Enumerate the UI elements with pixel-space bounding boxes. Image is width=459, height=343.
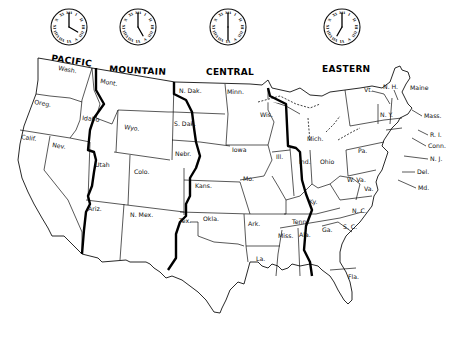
label-utah: Utah — [95, 161, 110, 168]
label-mich: Mich. — [307, 135, 323, 142]
time-zone-map: XIIIIIIIIIIIIVVIVIIVIIIIXXXI XIIIIIIIIII… — [0, 0, 459, 343]
label-va: Va. — [364, 185, 374, 192]
label-tenn: Tenn. — [291, 218, 308, 225]
svg-text:III: III — [240, 24, 244, 29]
zone-label-eastern: EASTERN — [322, 64, 370, 74]
zone-label-central: CENTRAL — [206, 67, 254, 77]
label-pa: Pa. — [358, 147, 367, 154]
label-vt: Vt. — [364, 86, 373, 93]
label-la: La. — [256, 255, 265, 262]
label-ny: N. Y. — [380, 111, 393, 118]
label-ri: R. I. — [430, 131, 442, 138]
label-iowa: Iowa — [232, 146, 247, 153]
label-wva: W. Va. — [347, 176, 366, 183]
label-maine: Maine — [410, 84, 429, 91]
svg-text:III: III — [81, 24, 85, 29]
clock-central: XIIIIIIIIIIIIVVIVIIVIIIIXXXI — [210, 9, 246, 45]
label-miss: Miss. — [278, 232, 294, 239]
label-nc: N. C. — [352, 207, 367, 214]
label-md: Md. — [418, 184, 429, 191]
label-colo: Colo. — [134, 168, 150, 175]
label-sc: S. C. — [343, 223, 357, 230]
label-ndak: N. Dak. — [179, 87, 202, 94]
label-ark: Ark. — [248, 220, 260, 227]
label-fla: Fla. — [348, 273, 359, 280]
label-sdak: S. Dak. — [174, 120, 196, 127]
svg-text:VI: VI — [339, 39, 345, 43]
clock-eastern: XIIIIIIIIIIIIVVIVIIVIIIIXXXI — [324, 9, 360, 45]
label-del: Del. — [417, 168, 429, 175]
label-ohio: Ohio — [320, 158, 335, 165]
label-nebr: Nebr. — [175, 150, 191, 157]
label-wis: Wis. — [260, 111, 273, 118]
label-ga: Ga. — [322, 226, 333, 233]
label-mass: Mass. — [424, 112, 442, 119]
svg-text:IX: IX — [326, 25, 330, 30]
svg-text:IX: IX — [122, 25, 126, 30]
label-conn: Conn. — [428, 142, 446, 149]
svg-text:III: III — [354, 24, 358, 29]
label-tex: Tex. — [178, 217, 191, 224]
svg-text:VI: VI — [66, 39, 72, 43]
label-okla: Okla. — [203, 215, 219, 222]
label-ala: Ala. — [299, 231, 311, 238]
label-ky: Ky. — [309, 198, 317, 206]
label-ind: Ind. — [299, 158, 311, 165]
label-nj: N. J. — [430, 155, 442, 163]
label-nh: N. H. — [383, 83, 398, 90]
clock-mountain: XIIIIIIIIIIIIVVIVIIVIIIIXXXI — [120, 9, 156, 45]
svg-text:III: III — [150, 24, 154, 29]
svg-text:VI: VI — [135, 39, 141, 43]
clock-pacific: XIIIIIIIIIIIIVVIVIIVIIIIXXXI — [51, 9, 87, 45]
label-ill: Ill. — [276, 153, 283, 160]
svg-text:IX: IX — [212, 25, 216, 30]
label-kans: Kans. — [195, 182, 212, 189]
label-minn: Minn. — [227, 88, 244, 95]
label-mo: Mo. — [243, 175, 254, 182]
label-nmex: N. Mex. — [130, 211, 153, 218]
label-ariz: Ariz. — [88, 205, 102, 212]
svg-text:IX: IX — [53, 25, 57, 30]
